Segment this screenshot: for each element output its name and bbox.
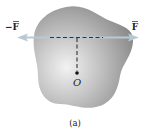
- rigid-body: [34, 6, 133, 108]
- force-left-label: −F: [5, 22, 20, 32]
- point-o-label: O: [73, 77, 81, 88]
- figure-caption: (a): [69, 118, 81, 128]
- couple-diagram: O −F F (a): [0, 0, 151, 136]
- force-right-label: F: [132, 22, 139, 32]
- point-o-dot: [75, 71, 79, 75]
